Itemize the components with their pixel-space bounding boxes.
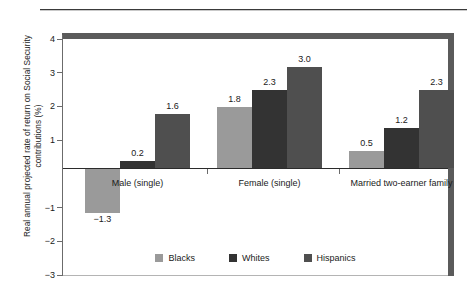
group-separator-tick [207,169,208,174]
bar-value-label: 3.0 [298,54,311,65]
bar-hispanics-1: 3.0 [287,67,322,168]
y-axis-tick: 1 [0,135,62,145]
bar-hispanics-2: 2.3 [419,90,454,168]
group-separator-tick [339,169,340,174]
bar-value-label: 2.3 [430,77,443,88]
y-axis-tick-label: 1 [50,135,62,145]
y-axis-tick: −3 [0,270,62,280]
bar-whites-2: 1.2 [384,128,419,168]
y-axis-tick-label: −1 [45,203,62,213]
bar-blacks-2: 0.5 [349,151,384,168]
y-axis-tick-label: 3 [50,68,62,78]
bar-group: 0.51.22.3Married two-earner family [349,39,454,275]
y-axis-tick: 3 [0,68,62,78]
y-axis-tick: −1 [0,203,62,213]
legend-label: Whites [242,253,270,263]
x-axis-category-label: Married two-earner family [349,178,454,188]
bar-value-label: 1.8 [228,94,241,105]
legend-item-hispanics: Hispanics [304,253,356,263]
bar-value-label: 0.2 [131,148,144,159]
legend-item-blacks: Blacks [155,253,195,263]
bar-hispanics-0: 1.6 [155,114,190,168]
x-axis-category-label: Male (single) [85,178,190,188]
x-axis-category-label: Female (single) [217,178,322,188]
y-axis-tick-label: 4 [50,34,62,44]
bar-blacks-1: 1.8 [217,107,252,168]
bar-group: −1.30.21.6Male (single) [85,39,190,275]
legend-swatch-blacks [155,254,163,262]
bar-value-label: 1.2 [395,115,408,126]
chart-legend: BlacksWhitesHispanics [63,253,448,263]
plot-area: −1.30.21.6Male (single)1.82.33.0Female (… [63,39,448,275]
legend-item-whites: Whites [229,253,270,263]
bar-group: 1.82.33.0Female (single) [217,39,322,275]
bar-value-label: 2.3 [263,77,276,88]
legend-label: Blacks [168,253,195,263]
y-axis-tick-label: −2 [45,236,62,246]
bar-whites-1: 2.3 [252,90,287,168]
legend-swatch-hispanics [304,254,312,262]
y-axis-tick: 4 [0,34,62,44]
y-axis-tick-label: 2 [50,101,62,111]
bar-value-label: 1.6 [166,101,179,112]
bar-whites-0: 0.2 [120,161,155,168]
bar-value-label: 0.5 [360,138,373,149]
legend-swatch-whites [229,254,237,262]
y-axis-tick: 2 [0,101,62,111]
bar-blacks-0: −1.3 [85,169,120,213]
y-axis-tick-label: −3 [45,270,62,280]
bar-value-label: −1.3 [94,214,112,225]
bar-chart-figure: Real annual projected rate of return on … [0,0,468,297]
legend-label: Hispanics [317,253,356,263]
y-axis-tick: −2 [0,236,62,246]
